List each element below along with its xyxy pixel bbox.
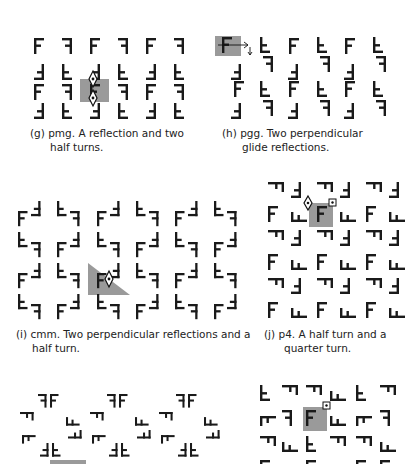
f-motif-glyph (291, 278, 301, 294)
f-motif-glyph (18, 211, 28, 226)
f-motif-glyph (260, 460, 270, 464)
f-motif-glyph (190, 443, 199, 457)
f-motif-glyph (340, 308, 356, 318)
f-motif-glyph (268, 302, 278, 318)
f-motif-glyph (366, 254, 376, 270)
f-motif-glyph (260, 436, 276, 446)
caption-text-cont: quarter turn. (264, 341, 419, 355)
f-motif-glyph (317, 230, 333, 240)
caption-text: pgg. Two perpendicular (240, 127, 363, 139)
f-motif-glyph (356, 436, 372, 446)
f-motif-glyph (40, 443, 49, 457)
f-motif-glyph (282, 385, 298, 395)
f-motif-glyph (268, 254, 278, 270)
caption-label: (h) (222, 127, 237, 139)
f-motif-glyph (366, 206, 376, 222)
f-motif-glyph (188, 263, 198, 278)
f-motif-glyph (31, 263, 41, 278)
f-motif-glyph (57, 242, 67, 257)
partial-pattern-l (260, 360, 419, 464)
f-motif-glyph (389, 278, 399, 294)
f-motif-glyph (291, 308, 307, 318)
f-motif-glyph (214, 304, 224, 319)
f-motif-glyph (282, 410, 292, 426)
f-motif-glyph (178, 443, 187, 457)
f-motif-glyph (175, 232, 185, 247)
f-motif-glyph (389, 212, 405, 222)
f-motif-glyph (70, 273, 80, 288)
f-motif-glyph (188, 242, 198, 257)
panel-g-pmg: (g) pmg. A reflection and two half turns… (0, 0, 210, 160)
f-motif-glyph (97, 294, 107, 309)
f-motif-glyph (330, 436, 346, 446)
f-motif-glyph (31, 242, 41, 257)
cmm-pattern (0, 160, 260, 325)
f-motif-glyph (136, 242, 146, 257)
f-motif-glyph (159, 412, 173, 421)
f-motif-glyph (306, 436, 316, 452)
f-motif-glyph (31, 201, 41, 216)
f-motif-glyph (260, 416, 276, 426)
f-motif-glyph (366, 182, 382, 192)
f-motif-glyph (136, 304, 146, 319)
f-motif-glyph (330, 416, 346, 426)
f-motif-glyph (380, 385, 396, 395)
f-motif-glyph (340, 212, 356, 222)
f-motif-glyph (214, 242, 224, 257)
f-motif-glyph (70, 211, 80, 226)
caption-text-cont: half turns. (30, 140, 210, 154)
f-motif-glyph (306, 460, 316, 464)
f-motif-glyph (260, 385, 270, 401)
f-motif-glyph (52, 443, 61, 457)
f-motif-glyph (92, 435, 106, 444)
f-motif-glyph (227, 211, 237, 226)
f-motif-glyph (340, 230, 350, 246)
f-motif-glyph (206, 430, 220, 439)
f-motif-glyph (291, 182, 301, 198)
f-motif-glyph (137, 430, 151, 439)
f-motif-glyph (389, 230, 399, 246)
f-motif-glyph (214, 263, 224, 278)
f-motif-glyph (57, 263, 67, 278)
f-motif-glyph (109, 443, 118, 457)
f-motif-glyph (20, 412, 34, 421)
f-motif-glyph (356, 385, 366, 401)
caption-text: pmg. A reflection and two (48, 127, 184, 139)
f-motif-glyph (291, 260, 307, 270)
f-motif-glyph (317, 254, 327, 270)
f-motif-glyph (227, 232, 237, 247)
f-motif-glyph (188, 304, 198, 319)
f-motif-glyph (366, 302, 376, 318)
panel-h-pgg: (h) pgg. Two perpendicular glide reflect… (210, 0, 419, 160)
caption-g: (g) pmg. A reflection and two half turns… (30, 126, 210, 154)
caption-label: (j) (264, 328, 275, 340)
f-motif-glyph (366, 278, 382, 288)
f-motif-glyph (110, 201, 120, 216)
f-motif-glyph (176, 394, 185, 408)
caption-text-cont: glide reflections. (222, 140, 412, 154)
f-motif-glyph (389, 308, 405, 318)
f-motif-glyph (70, 232, 80, 247)
f-motif-glyph (389, 182, 399, 198)
f-motif-glyph (121, 443, 130, 457)
f-motif-glyph (306, 385, 322, 395)
caption-text-cont: half turn. (16, 341, 260, 355)
f-motif-glyph (317, 278, 333, 288)
f-motif-glyph (317, 302, 327, 318)
f-motif-glyph (97, 211, 107, 226)
quarter-turn-center-icon (323, 402, 330, 409)
caption-text: p4. A half turn and a (278, 328, 386, 340)
f-motif-glyph (50, 394, 59, 408)
f-motif-glyph (66, 417, 80, 426)
f-motif-glyph (22, 435, 36, 444)
f-motif-glyph (175, 211, 185, 226)
f-motif-glyph (18, 273, 28, 288)
f-motif-glyph (389, 260, 405, 270)
f-motif-glyph (136, 263, 146, 278)
f-motif-glyph (214, 201, 224, 216)
pmg-pattern (0, 0, 210, 125)
f-motif-glyph (227, 273, 237, 288)
f-motif-glyph (149, 211, 159, 226)
fundamental-region-highlight (50, 460, 86, 464)
f-motif-glyph (330, 391, 346, 401)
